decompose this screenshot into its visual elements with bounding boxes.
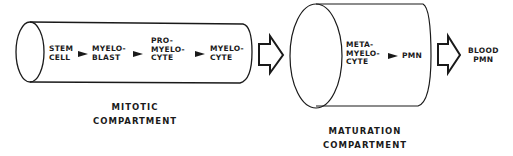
blood-pmn-label: BLOODPMN xyxy=(468,47,499,64)
stage-stem-cell: STEMCELL xyxy=(49,45,73,62)
stage-promyelocyte: PRO-MYELO-CYTE xyxy=(151,37,185,63)
stage-myeloblast: MYELO-BLAST xyxy=(92,45,126,62)
arrow-right-icon xyxy=(133,51,143,57)
diagram-shapes xyxy=(0,0,513,156)
hollow-arrow-icon xyxy=(438,36,460,73)
mitotic-compartment-caption: MITOTICCOMPARTMENT xyxy=(85,100,185,128)
arrow-right-icon xyxy=(388,53,398,59)
stage-myelocyte: MYELO-CYTE xyxy=(210,45,244,62)
maturation-compartment-caption: MATURATIONCOMPARTMENT xyxy=(310,124,420,152)
arrow-right-icon xyxy=(195,51,205,57)
arrow-right-icon xyxy=(78,51,88,57)
stage-pmn: PMN xyxy=(402,52,422,61)
hollow-arrow-icon xyxy=(259,36,283,73)
stage-metamyelocyte: META-MYELO-CYTE xyxy=(346,41,380,67)
